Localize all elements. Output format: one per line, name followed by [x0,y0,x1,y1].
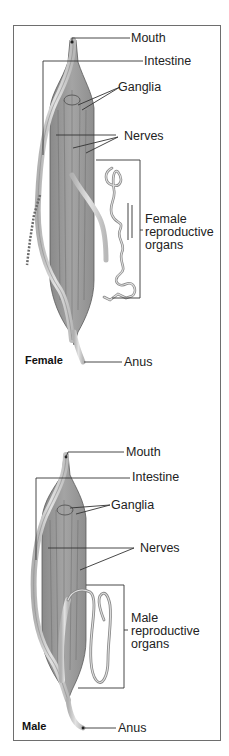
male-label-ganglia: Ganglia [111,499,154,512]
female-label-mouth: Mouth [131,32,166,45]
male-label-anus: Anus [118,722,147,735]
female-title: Female [25,354,63,366]
male-worm [34,452,134,729]
male-title: Male [22,720,46,732]
male-label-intestine: Intestine [132,471,179,484]
female-label-anus: Anus [124,356,153,369]
female-label-ganglia: Ganglia [118,81,161,94]
male-label-reproductive-organs: Male reproductive organs [131,612,201,651]
male-label-mouth: Mouth [126,446,161,459]
male-label-nerves: Nerves [140,542,180,555]
female-label-reproductive-organs: Female reproductive organs [145,213,215,252]
female-label-intestine: Intestine [144,55,191,68]
female-label-nerves: Nerves [124,130,164,143]
